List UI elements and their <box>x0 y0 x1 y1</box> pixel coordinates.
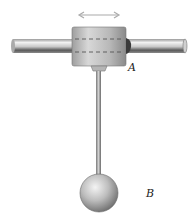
label-b: B <box>145 187 154 200</box>
collar-mount <box>91 66 107 71</box>
label-a: A <box>127 61 136 74</box>
double-arrow-icon <box>79 12 119 18</box>
diagram-canvas: A B <box>0 0 196 218</box>
collar <box>72 27 131 66</box>
pendulum-rod <box>96 71 101 175</box>
sphere <box>80 174 118 212</box>
